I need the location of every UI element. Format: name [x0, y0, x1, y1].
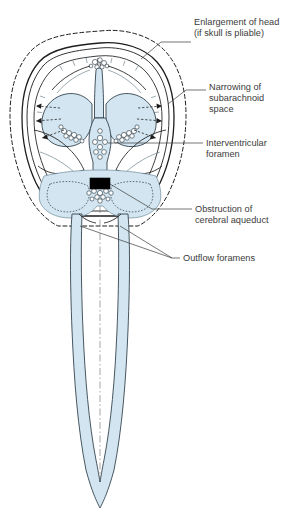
aqueduct-obstruction-block — [90, 178, 110, 189]
label-obstruction-line1: Obstruction of — [195, 204, 253, 214]
label-narrowing-line1: Narrowing of — [209, 82, 262, 92]
label-obstruction-line2: cerebral aqueduct — [195, 215, 269, 225]
hydrocephalus-diagram: Enlargement of head (if skull is pliable… — [0, 0, 297, 513]
label-enlargement-line2: (if skull is pliable) — [194, 28, 264, 38]
label-interventricular-line1: Interventricular — [206, 138, 267, 148]
third-ventricle-superior — [95, 68, 104, 118]
label-narrowing-line3: space — [209, 104, 234, 114]
label-outflow-line1: Outflow foramens — [183, 253, 255, 263]
label-interventricular-line2: foramen — [206, 149, 240, 159]
label-enlargement-line1: Enlargement of head — [194, 17, 279, 27]
label-narrowing-line2: subarachnoid — [209, 93, 264, 103]
